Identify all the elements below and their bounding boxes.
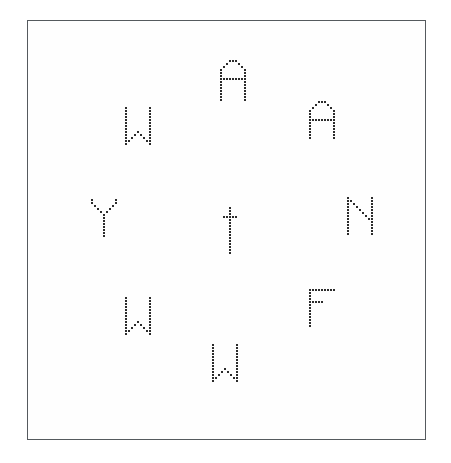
letter-upper-left bbox=[125, 107, 152, 146]
letter-bottom bbox=[212, 344, 239, 383]
letter-upper-right bbox=[309, 101, 336, 140]
letter-left bbox=[91, 199, 118, 238]
stimulus-canvas bbox=[0, 0, 451, 463]
letter-center bbox=[220, 207, 241, 255]
letter-right bbox=[347, 197, 374, 236]
stimulus-border bbox=[27, 20, 426, 440]
letter-top bbox=[220, 60, 247, 102]
letter-lower-left bbox=[125, 297, 152, 336]
letter-lower-right bbox=[309, 289, 336, 328]
